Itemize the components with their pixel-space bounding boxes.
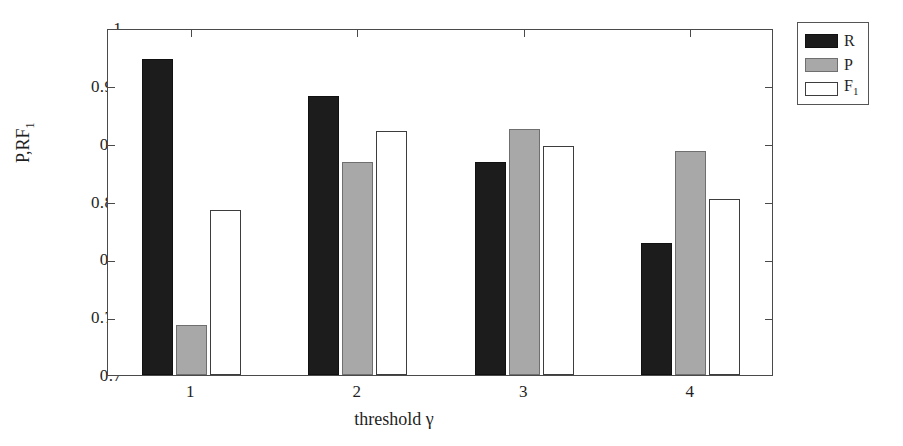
- x-tick-label: 2: [337, 383, 377, 400]
- bar-f1-group2: [376, 131, 407, 375]
- bar-p-group3: [509, 129, 540, 375]
- bar-r-group2: [308, 96, 339, 375]
- x-tick-mark: [357, 30, 358, 37]
- x-tick-mark: [191, 30, 192, 37]
- legend-swatch-r: [805, 34, 838, 48]
- bar-r-group1: [142, 59, 173, 375]
- bar-r-group4: [641, 243, 672, 375]
- y-axis-title: P,RF1: [14, 122, 39, 163]
- y-tick-mark: [765, 261, 772, 262]
- legend-label-main: R: [844, 32, 855, 49]
- y-axis-title-subscript: 1: [23, 122, 37, 128]
- x-axis-title: threshold γ: [0, 410, 903, 428]
- legend-label-f1: F1: [844, 78, 858, 99]
- bar-r-group3: [475, 162, 506, 375]
- y-axis-title-main: P,RF: [13, 128, 33, 163]
- bar-f1-group3: [543, 146, 574, 375]
- legend-label-p: P: [844, 57, 853, 73]
- plot-area: [107, 29, 773, 376]
- y-tick-mark: [108, 87, 115, 88]
- legend-item-r[interactable]: R: [805, 30, 868, 52]
- y-tick-mark: [765, 145, 772, 146]
- legend-item-p[interactable]: P: [805, 54, 868, 76]
- legend-swatch-p: [805, 58, 838, 72]
- x-tick-label: 1: [170, 383, 210, 400]
- x-tick-mark: [690, 30, 691, 37]
- bar-p-group1: [176, 325, 207, 375]
- x-tick-label: 3: [503, 383, 543, 400]
- bar-p-group2: [342, 162, 373, 375]
- legend-label-subscript: 1: [853, 86, 859, 98]
- legend-swatch-f1: [805, 82, 838, 96]
- y-tick-mark: [765, 319, 772, 320]
- y-tick-mark: [765, 203, 772, 204]
- x-tick-label: 4: [670, 383, 710, 400]
- legend-label-main: P: [844, 56, 853, 73]
- bar-chart-figure: P,RF1 10.950.90.850.80.750.7 1234 thresh…: [0, 0, 903, 446]
- y-tick-mark: [108, 145, 115, 146]
- y-tick-mark: [765, 87, 772, 88]
- y-tick-mark: [108, 319, 115, 320]
- legend-box: RPF1: [797, 22, 869, 105]
- legend-label-r: R: [844, 33, 855, 49]
- y-tick-mark: [108, 203, 115, 204]
- x-tick-mark: [524, 30, 525, 37]
- bar-p-group4: [675, 151, 706, 375]
- legend-label-main: F: [844, 77, 853, 94]
- y-tick-mark: [108, 261, 115, 262]
- bar-f1-group4: [709, 199, 740, 375]
- bar-f1-group1: [210, 210, 241, 375]
- legend-item-f1[interactable]: F1: [805, 78, 868, 100]
